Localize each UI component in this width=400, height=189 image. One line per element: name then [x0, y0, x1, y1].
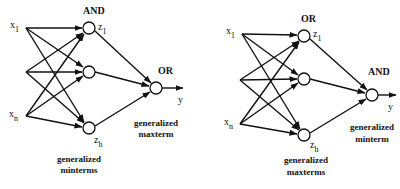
left-output-caption-line2: maxterm — [139, 129, 174, 139]
left-output-caption-line1: generalized — [134, 118, 178, 128]
right-node-z1 — [298, 30, 310, 42]
right-hidden-layer-label: OR — [301, 13, 317, 24]
left-input-x1: x1 — [10, 19, 19, 34]
left-hidden-zh: zh — [94, 134, 102, 149]
left-node-zh — [83, 122, 95, 134]
left-network — [26, 28, 183, 127]
left-node-middle — [83, 66, 95, 78]
right-node-output — [366, 89, 378, 101]
left-hidden-layer-label: AND — [83, 5, 105, 16]
right-output-caption-line2: minterm — [355, 134, 389, 144]
right-node-middle — [298, 73, 310, 85]
right-input-x1: x1 — [226, 25, 235, 40]
right-hidden-caption-line2: maxterms — [287, 167, 326, 177]
right-input-xn: xn — [224, 116, 233, 131]
right-hidden-z1: z1 — [313, 28, 321, 43]
left-hidden-caption-line1: generalized — [57, 154, 101, 164]
right-node-zh — [298, 129, 310, 141]
right-hidden-caption-line1: generalized — [284, 155, 328, 165]
right-output-caption-line1: generalized — [350, 122, 394, 132]
right-output-y: y — [388, 101, 393, 112]
left-output-y: y — [178, 94, 183, 105]
left-output-layer-label: OR — [158, 65, 174, 76]
network-diagrams: AND OR x1 xn z1 zh y generalized maxterm… — [0, 0, 400, 189]
left-node-output — [150, 82, 162, 94]
left-node-z1 — [83, 22, 95, 34]
right-network — [240, 34, 396, 134]
left-hidden-caption-line2: minterms — [61, 165, 98, 175]
left-input-xn: xn — [9, 108, 18, 123]
left-hidden-z1: z1 — [98, 21, 106, 36]
right-output-layer-label: AND — [368, 66, 390, 77]
right-hidden-zh: zh — [310, 139, 318, 154]
